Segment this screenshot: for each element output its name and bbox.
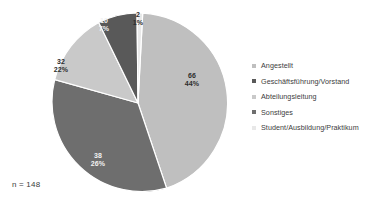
legend-label-angestellt: Angestellt	[261, 61, 293, 70]
legend-swatch-icon-geschaeftsfuehrung	[252, 79, 256, 83]
pie-svg	[48, 13, 228, 193]
legend-item-abteilungsleitung[interactable]: Abteilungsleitung	[252, 89, 389, 105]
legend-swatch-icon-abteilungsleitung	[252, 95, 256, 99]
pie-chart: 66 44% 38 26% 32 22% 10 7% 2 1% n = 148	[0, 0, 236, 210]
legend-item-sonstiges[interactable]: Sonstiges	[252, 105, 389, 121]
legend-label-geschaeftsfuehrung: Geschäftsführung/Vorstand	[261, 77, 349, 86]
legend-swatch-icon-angestellt	[252, 64, 256, 68]
legend-label-sonstiges: Sonstiges	[261, 108, 293, 117]
legend-item-angestellt[interactable]: Angestellt	[252, 58, 389, 74]
legend-label-abteilungsleitung: Abteilungsleitung	[261, 92, 317, 101]
legend-swatch-icon-student	[252, 126, 256, 130]
pie-slices	[52, 13, 228, 192]
sample-size-note: n = 148	[12, 180, 40, 189]
chart-canvas: 66 44% 38 26% 32 22% 10 7% 2 1% n = 148 …	[0, 0, 389, 210]
legend-item-geschaeftsfuehrung[interactable]: Geschäftsführung/Vorstand	[252, 74, 389, 90]
legend-swatch-icon-sonstiges	[252, 110, 256, 114]
legend-item-student[interactable]: Student/Ausbildung/Praktikum	[252, 120, 389, 136]
chart-legend: Angestellt Geschäftsführung/Vorstand Abt…	[252, 58, 389, 136]
legend-label-student: Student/Ausbildung/Praktikum	[261, 123, 359, 132]
